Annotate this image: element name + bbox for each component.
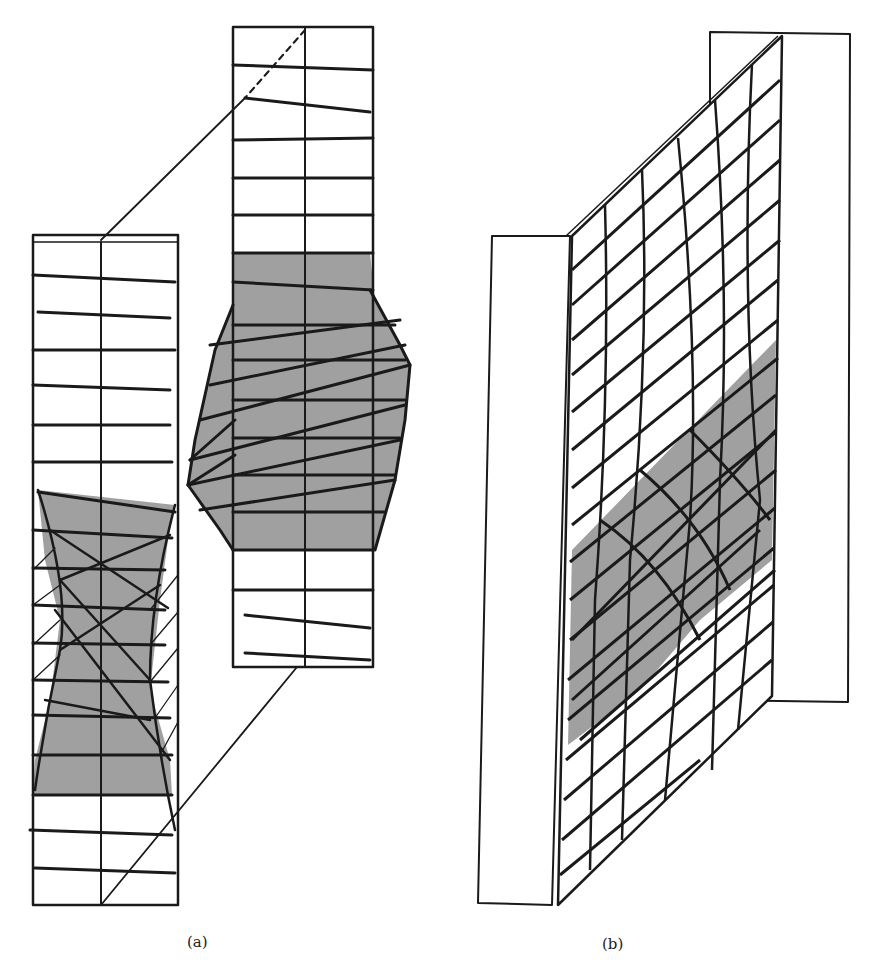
panel-b [478, 32, 850, 905]
caption-b: (b) [602, 935, 623, 953]
right-strip [188, 27, 410, 667]
projection-line-top [101, 98, 245, 240]
left-strip [30, 235, 178, 905]
figure-canvas [0, 0, 874, 978]
front-plate [478, 236, 570, 905]
mesh-panel [558, 36, 782, 905]
panel-a [30, 27, 410, 905]
caption-a: (a) [187, 933, 208, 951]
